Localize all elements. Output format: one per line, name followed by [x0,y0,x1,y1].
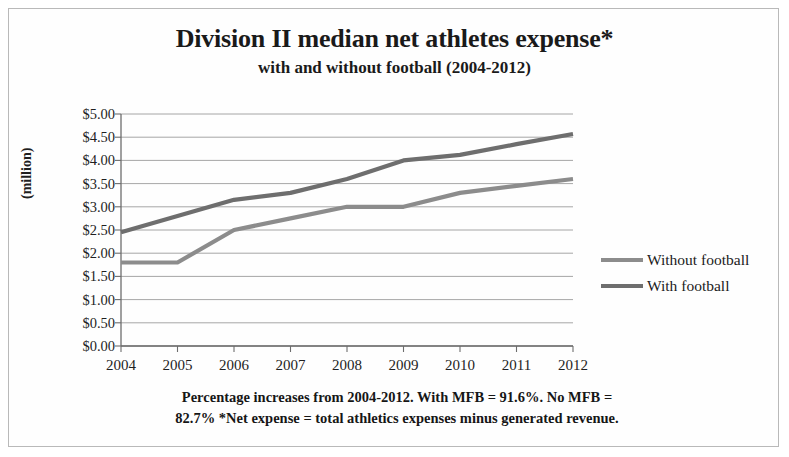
y-axis-tick-label: $2.00 [57,245,115,262]
x-axis-tick-label: 2007 [276,357,306,374]
footnote-line-1: Percentage increases from 2004-2012. Wit… [67,387,727,408]
x-axis-tick-label: 2005 [163,357,193,374]
y-axis-tick-label: $2.50 [57,222,115,239]
footnote: Percentage increases from 2004-2012. Wit… [67,387,727,429]
y-axis-tick-label: $0.00 [57,338,115,355]
data-series [121,134,573,263]
y-axis-ticks [115,114,121,346]
x-axis-tick-label: 2010 [445,357,475,374]
x-axis-tick-labels: 200420052006200720082009201020112012 [9,357,780,381]
legend-swatch-with-football [601,284,643,288]
legend-item-with-football: With football [601,273,776,299]
y-axis-tick-label: $1.50 [57,268,115,285]
legend-item-without-football: Without football [601,247,776,273]
y-axis-tick-label: $4.50 [57,129,115,146]
y-axis-tick-label: $5.00 [57,106,115,123]
line-chart-canvas [9,9,780,448]
x-axis-tick-label: 2011 [502,357,531,374]
footnote-line-2: 82.7% *Net expense = total athletics exp… [67,408,727,429]
legend-swatch-without-football [601,258,643,262]
y-axis-tick-label: $0.50 [57,314,115,331]
plot-area: (million) $0.00$0.50$1.00$1.50$2.00$2.50… [9,9,780,448]
x-axis-tick-label: 2009 [389,357,419,374]
legend-label-without-football: Without football [647,251,749,269]
y-axis-tick-label: $3.50 [57,175,115,192]
x-axis-tick-label: 2004 [106,357,136,374]
y-axis-tick-labels: $0.00$0.50$1.00$1.50$2.00$2.50$3.00$3.50… [57,9,115,448]
x-axis-ticks [121,346,573,352]
chart-card: Division II median net athletes expense*… [8,8,779,447]
y-axis-tick-label: $4.00 [57,152,115,169]
x-axis-tick-label: 2012 [558,357,588,374]
gridlines [121,114,573,346]
legend: Without football With football [601,247,776,299]
y-axis-tick-label: $1.00 [57,291,115,308]
legend-label-with-football: With football [647,277,729,295]
y-axis-title: (million) [19,179,35,199]
y-axis-tick-label: $3.00 [57,198,115,215]
x-axis-tick-label: 2006 [219,357,249,374]
x-axis-tick-label: 2008 [332,357,362,374]
